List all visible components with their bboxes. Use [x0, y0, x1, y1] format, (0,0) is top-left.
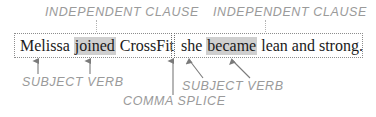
leader-line-left [96, 20, 97, 34]
comma-splice-diagram: INDEPENDENT CLAUSE INDEPENDENT CLAUSE Me… [0, 0, 376, 117]
clause-right-verb: became [206, 37, 257, 55]
divider-dotted-line-b [174, 33, 175, 58]
clause-left-subject: Melissa [20, 38, 70, 54]
clause-right-subject: she [181, 38, 202, 54]
label-subject-verb-right: SUBJECT VERB [182, 80, 284, 93]
label-subject-verb-left: SUBJECT VERB [22, 76, 124, 89]
clause-right-rest: lean and strong. [261, 38, 363, 54]
label-independent-clause-right: INDEPENDENT CLAUSE [213, 6, 367, 19]
arrow-subject-right [190, 61, 203, 78]
clause-left-rest: CrossFit [120, 38, 174, 54]
leader-line-right [265, 20, 266, 34]
divider-dotted-line-a [171, 33, 172, 58]
clause-box-left: Melissa joined CrossFit [14, 33, 172, 58]
clause-box-right: she became lean and strong. [176, 33, 363, 58]
clause-left-verb: joined [74, 37, 116, 55]
label-comma-splice: COMMA SPLICE [123, 95, 226, 108]
arrow-verb-right [233, 61, 250, 78]
label-independent-clause-left: INDEPENDENT CLAUSE [45, 6, 199, 19]
